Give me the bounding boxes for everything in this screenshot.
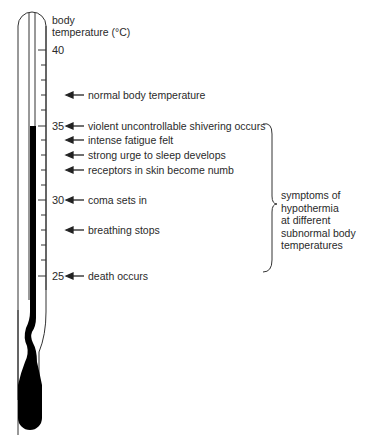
annotation-sleep-urge: strong urge to sleep develops (88, 149, 226, 161)
arrow-icon (66, 137, 84, 143)
annotation-shivering: violent uncontrollable shivering occurs (88, 120, 265, 132)
arrow-icon (66, 123, 84, 129)
arrow-icon (66, 92, 84, 98)
arrow-icon (66, 152, 84, 158)
bracket-label: symptoms of hypothermia at different sub… (281, 189, 356, 252)
tick-label-40: 40 (52, 44, 64, 56)
annotation-numb-receptors: receptors in skin become numb (88, 164, 234, 176)
mercury-column (18, 126, 42, 430)
arrow-icon (66, 197, 84, 203)
annotation-death: death occurs (88, 270, 148, 282)
arrow-icon (66, 227, 84, 233)
annotation-breathing-stops: breathing stops (88, 224, 160, 236)
axis-title: body temperature (°C) (52, 14, 130, 38)
tick-label-30: 30 (52, 194, 64, 206)
arrow-icon (66, 273, 84, 279)
annotation-coma: coma sets in (88, 194, 147, 206)
tick-label-35: 35 (52, 120, 64, 132)
annotation-normal-temp: normal body temperature (88, 89, 205, 101)
tick-label-25: 25 (52, 270, 64, 282)
annotation-fatigue: intense fatigue felt (88, 134, 173, 146)
arrow-icon (66, 167, 84, 173)
arrows (66, 92, 84, 279)
curly-brace (263, 124, 277, 272)
scale-ticks (38, 50, 46, 276)
